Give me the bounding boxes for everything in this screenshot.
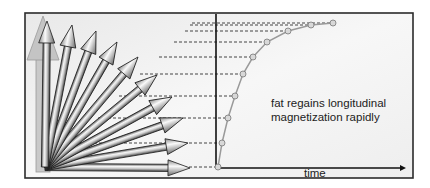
caption: fat regains longitudinal magnetization r… — [271, 96, 386, 124]
recovery-point — [285, 28, 291, 34]
recovery-point — [232, 93, 238, 99]
recovery-point — [264, 39, 270, 45]
recovery-point — [215, 164, 221, 170]
magnetization-recovery-diagram — [0, 0, 430, 188]
recovery-point — [330, 20, 336, 26]
recovery-point — [225, 115, 231, 121]
recovery-point — [240, 71, 246, 77]
x-axis-label: time — [304, 167, 326, 179]
recovery-point — [308, 22, 314, 28]
caption-line-1: fat regains longitudinal — [271, 96, 386, 110]
recovery-point — [250, 54, 256, 60]
caption-line-2: magnetization rapidly — [271, 110, 386, 124]
recovery-point — [219, 140, 225, 146]
